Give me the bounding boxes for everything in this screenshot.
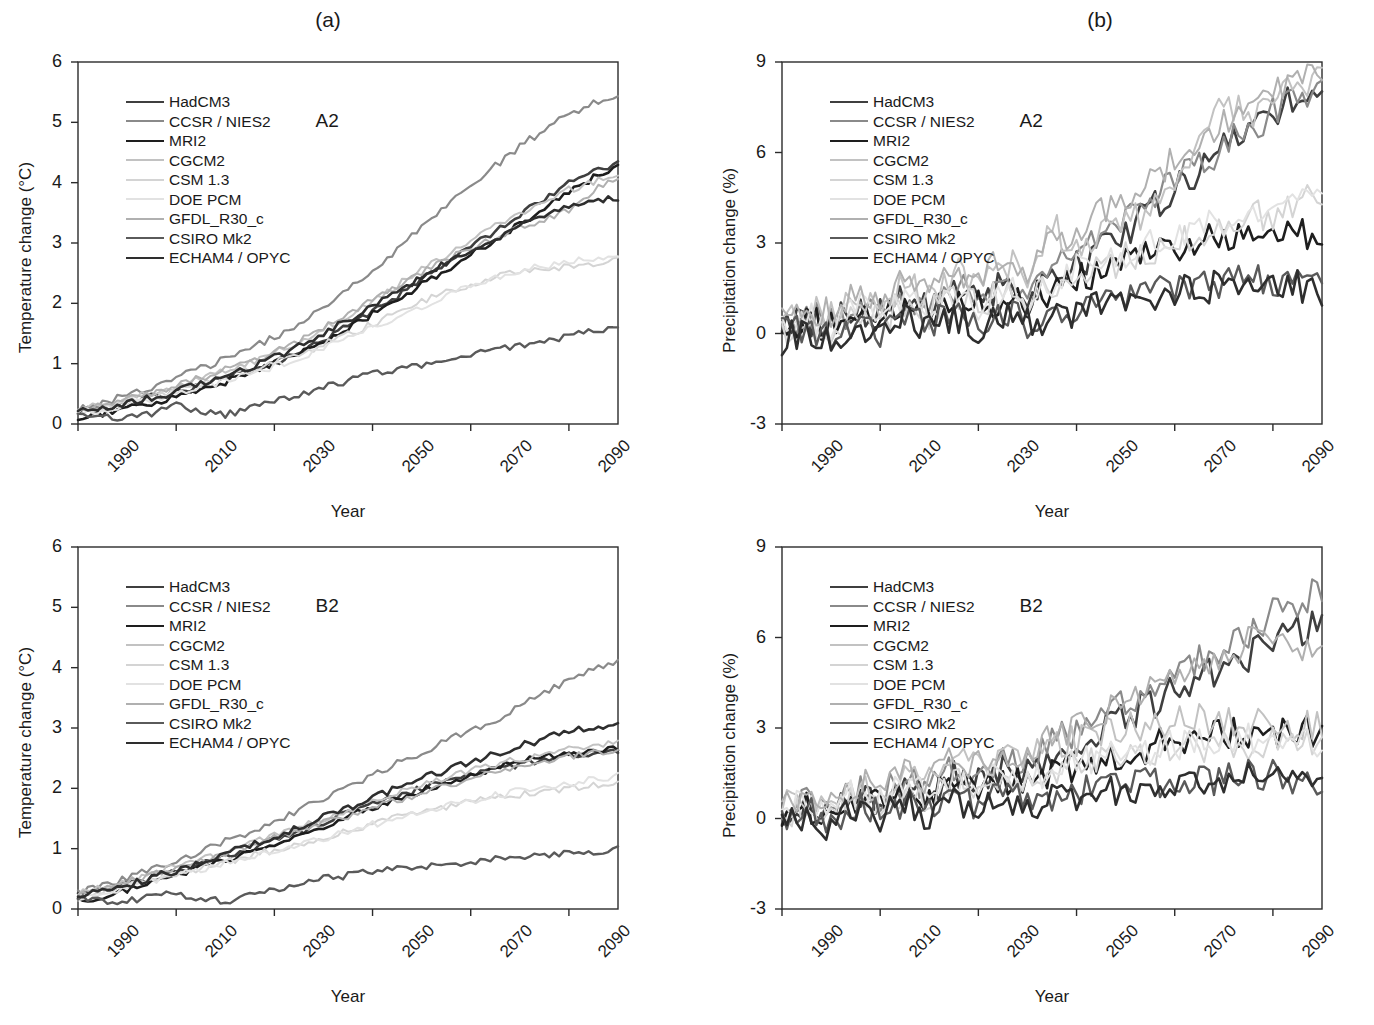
legend-label: CSM 1.3 — [873, 657, 933, 673]
legend-line-icon — [126, 625, 164, 627]
legend-line-icon — [126, 179, 164, 181]
legend-item[interactable]: GFDL_R30_c — [830, 209, 994, 229]
legend-line-icon — [126, 703, 164, 705]
legend-item[interactable]: CSM 1.3 — [126, 655, 290, 675]
legend-item[interactable]: HadCM3 — [830, 577, 994, 597]
legend: HadCM3CCSR / NIES2MRI2CGCM2CSM 1.3DOE PC… — [126, 92, 290, 268]
legend-label: CSIRO Mk2 — [873, 716, 956, 732]
legend-item[interactable]: ECHAM4 / OPYC — [126, 248, 290, 268]
series-line — [78, 773, 618, 901]
legend-item[interactable]: CGCM2 — [126, 151, 290, 171]
legend-label: ECHAM4 / OPYC — [873, 250, 994, 266]
legend-item[interactable]: CGCM2 — [830, 636, 994, 656]
legend-line-icon — [126, 120, 164, 122]
legend-item[interactable]: CSIRO Mk2 — [126, 229, 290, 249]
figure-root: (a) (b) 0123456199020102030205020702090T… — [0, 0, 1374, 1025]
legend-label: CSIRO Mk2 — [873, 231, 956, 247]
scenario-label: B2 — [1020, 595, 1043, 617]
legend-label: DOE PCM — [169, 192, 241, 208]
y-tick-label: 6 — [28, 51, 62, 72]
legend-line-icon — [830, 120, 868, 122]
legend-label: MRI2 — [873, 133, 910, 149]
legend-label: MRI2 — [169, 618, 206, 634]
legend-item[interactable]: DOE PCM — [126, 190, 290, 210]
series-line — [782, 763, 1322, 840]
legend-label: CCSR / NIES2 — [873, 599, 975, 615]
legend-line-icon — [126, 101, 164, 103]
legend-line-icon — [126, 664, 164, 666]
x-axis-label: Year — [288, 502, 408, 522]
legend-line-icon — [830, 257, 868, 259]
y-tick-label: 6 — [732, 627, 766, 648]
legend-item[interactable]: GFDL_R30_c — [126, 694, 290, 714]
legend-label: GFDL_R30_c — [873, 211, 968, 227]
legend-item[interactable]: CCSR / NIES2 — [126, 597, 290, 617]
legend-item[interactable]: MRI2 — [830, 131, 994, 151]
legend-label: HadCM3 — [169, 579, 230, 595]
legend-line-icon — [126, 586, 164, 588]
legend-label: GFDL_R30_c — [169, 211, 264, 227]
y-tick-label: -3 — [732, 413, 766, 434]
legend-item[interactable]: MRI2 — [126, 131, 290, 151]
legend-item[interactable]: ECHAM4 / OPYC — [126, 733, 290, 753]
legend-line-icon — [830, 625, 868, 627]
legend-label: CGCM2 — [169, 153, 225, 169]
legend-item[interactable]: CSIRO Mk2 — [126, 714, 290, 734]
legend-line-icon — [830, 742, 868, 744]
legend-line-icon — [830, 159, 868, 161]
legend-item[interactable]: DOE PCM — [126, 675, 290, 695]
legend-label: CCSR / NIES2 — [169, 114, 271, 130]
y-axis-label: Precipitation change (%) — [720, 653, 740, 838]
legend-label: GFDL_R30_c — [873, 696, 968, 712]
legend-line-icon — [126, 722, 164, 724]
legend-line-icon — [830, 237, 868, 239]
legend-label: CGCM2 — [873, 638, 929, 654]
panel-b-title: (b) — [1000, 8, 1200, 32]
legend-item[interactable]: ECHAM4 / OPYC — [830, 733, 994, 753]
legend-item[interactable]: DOE PCM — [830, 190, 994, 210]
legend-item[interactable]: DOE PCM — [830, 675, 994, 695]
legend-label: CGCM2 — [169, 638, 225, 654]
legend-line-icon — [126, 605, 164, 607]
legend-label: DOE PCM — [169, 677, 241, 693]
legend-item[interactable]: CSM 1.3 — [126, 170, 290, 190]
legend-label: HadCM3 — [873, 579, 934, 595]
panel-precipitation-b2: -30369199020102030205020702090Precipitat… — [690, 525, 1374, 1005]
legend-line-icon — [830, 703, 868, 705]
legend-label: ECHAM4 / OPYC — [169, 735, 290, 751]
legend-item[interactable]: HadCM3 — [126, 577, 290, 597]
legend-line-icon — [830, 179, 868, 181]
legend-item[interactable]: CCSR / NIES2 — [830, 597, 994, 617]
legend-label: CSIRO Mk2 — [169, 231, 252, 247]
scenario-label: A2 — [1020, 110, 1043, 132]
legend-item[interactable]: CGCM2 — [830, 151, 994, 171]
panel-temperature-b2: 0123456199020102030205020702090Temperatu… — [0, 525, 680, 1005]
legend-item[interactable]: MRI2 — [126, 616, 290, 636]
legend-label: HadCM3 — [169, 94, 230, 110]
legend-line-icon — [830, 722, 868, 724]
legend-item[interactable]: GFDL_R30_c — [126, 209, 290, 229]
legend-line-icon — [830, 198, 868, 200]
legend-item[interactable]: CGCM2 — [126, 636, 290, 656]
legend-label: GFDL_R30_c — [169, 696, 264, 712]
legend: HadCM3CCSR / NIES2MRI2CGCM2CSM 1.3DOE PC… — [126, 577, 290, 753]
legend-label: DOE PCM — [873, 192, 945, 208]
legend-item[interactable]: ECHAM4 / OPYC — [830, 248, 994, 268]
panel-temperature-a2: 0123456199020102030205020702090Temperatu… — [0, 40, 680, 520]
legend-item[interactable]: CSIRO Mk2 — [830, 714, 994, 734]
legend-line-icon — [830, 140, 868, 142]
legend-line-icon — [830, 101, 868, 103]
legend-item[interactable]: HadCM3 — [126, 92, 290, 112]
legend-item[interactable]: CSM 1.3 — [830, 170, 994, 190]
legend-item[interactable]: CCSR / NIES2 — [126, 112, 290, 132]
legend-item[interactable]: CCSR / NIES2 — [830, 112, 994, 132]
legend-item[interactable]: CSM 1.3 — [830, 655, 994, 675]
legend-item[interactable]: GFDL_R30_c — [830, 694, 994, 714]
legend-item[interactable]: MRI2 — [830, 616, 994, 636]
legend-label: CCSR / NIES2 — [873, 114, 975, 130]
y-tick-label: 0 — [28, 898, 62, 919]
legend-item[interactable]: HadCM3 — [830, 92, 994, 112]
legend-item[interactable]: CSIRO Mk2 — [830, 229, 994, 249]
y-tick-label: 0 — [28, 413, 62, 434]
panel-a-title: (a) — [228, 8, 428, 32]
